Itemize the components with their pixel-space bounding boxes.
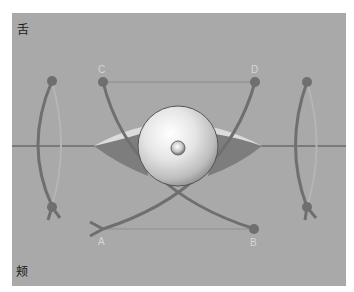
point-a-fork: [90, 222, 103, 236]
right-fork: [305, 207, 316, 220]
label-cheek: 颊: [16, 262, 28, 279]
left-top-node: [47, 76, 57, 86]
right-arc-dark: [296, 82, 308, 207]
point-a-label: A: [98, 236, 105, 247]
point-d-label: D: [251, 64, 258, 75]
eye-muscle-diagram: [0, 0, 354, 292]
point-b-node: [249, 224, 259, 234]
right-top-node: [302, 77, 312, 87]
right-arc-light: [307, 82, 317, 207]
pupil: [171, 141, 185, 155]
point-c-node: [98, 77, 108, 87]
point-c-label: C: [98, 64, 105, 75]
point-b-label: B: [250, 237, 257, 248]
left-arc-light: [52, 81, 61, 206]
point-d-node: [250, 77, 260, 87]
label-tongue: 舌: [17, 20, 29, 37]
left-arc-dark: [38, 81, 52, 206]
